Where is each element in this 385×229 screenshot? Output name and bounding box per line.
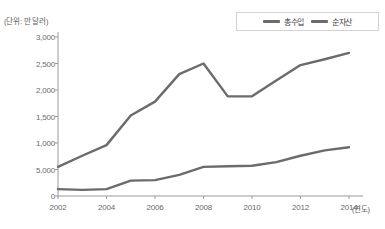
line-chart: (단위: 만 달러) 총수입 순자산 05,0001,0001,5002,000… <box>0 0 385 229</box>
series-line-1 <box>58 147 349 190</box>
series-line-0 <box>58 53 349 167</box>
plot-area <box>0 0 385 229</box>
